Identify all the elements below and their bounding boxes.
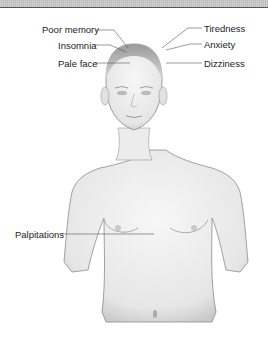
label-dizziness: Dizziness xyxy=(204,58,245,69)
neck-shape xyxy=(116,128,152,160)
eye-right xyxy=(141,91,151,95)
label-pale-face: Pale face xyxy=(58,58,98,69)
navel xyxy=(153,310,157,318)
nipple-right xyxy=(191,225,197,231)
label-anxiety: Anxiety xyxy=(204,39,235,50)
body-illustration xyxy=(0,0,268,340)
ear-left xyxy=(101,87,109,105)
label-poor-memory: Poor memory xyxy=(42,24,99,35)
label-palpitations: Palpitations xyxy=(15,229,64,240)
label-insomnia: Insomnia xyxy=(58,40,97,51)
label-tiredness: Tiredness xyxy=(204,23,245,34)
torso-shape xyxy=(64,150,248,322)
ear-right xyxy=(159,87,167,105)
eye-left xyxy=(117,91,127,95)
nipple-left xyxy=(115,225,121,231)
